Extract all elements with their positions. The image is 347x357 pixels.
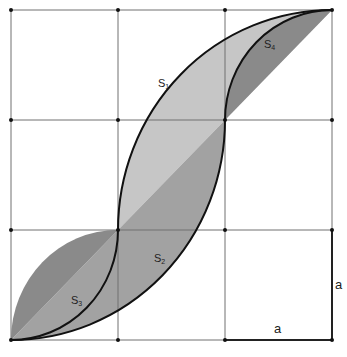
region-s4 bbox=[225, 10, 332, 120]
label-s1: S1 bbox=[158, 77, 169, 90]
diagram-canvas: S1 S2 S3 S4 a a bbox=[0, 0, 347, 357]
dimension-label-vertical: a bbox=[335, 277, 343, 292]
dimension-label-horizontal: a bbox=[274, 321, 282, 336]
